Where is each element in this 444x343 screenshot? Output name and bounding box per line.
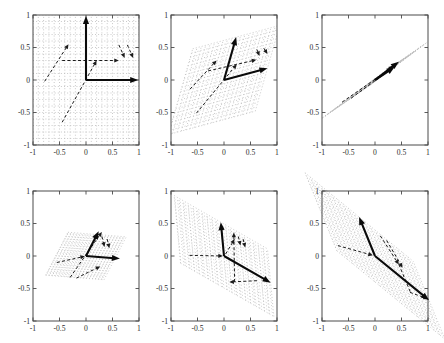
x-tick-label: -1 xyxy=(319,324,326,333)
solid-vectors xyxy=(359,217,429,300)
x-tick-label: 1 xyxy=(275,324,279,333)
y-tick-label: 1 xyxy=(164,11,168,20)
figure-canvas: -1-1-0.5-0.5000.50.511 -1-1-0.5-0.5000.5… xyxy=(0,0,444,343)
y-tick-label: -0.5 xyxy=(156,108,168,117)
x-tick-label: 0.5 xyxy=(246,148,256,157)
dashed-vectors xyxy=(45,44,134,122)
y-tick-label: -0.5 xyxy=(18,108,30,117)
axis-tick-labels: -1-1-0.5-0.5000.50.511 xyxy=(156,187,279,333)
y-tick-label: -1 xyxy=(24,141,31,150)
x-tick-label: -0.5 xyxy=(191,324,203,333)
subplot-bottom-left: -1-1-0.5-0.5000.50.511 xyxy=(11,183,151,343)
y-tick-label: -0.5 xyxy=(156,284,168,293)
y-tick-label: 0 xyxy=(26,76,30,85)
solid-vectors xyxy=(375,62,399,80)
x-tick-label: -0.5 xyxy=(342,324,354,333)
subplot-bottom-right: -1-1-0.5-0.5000.50.511 xyxy=(300,183,440,343)
y-tick-label: 1 xyxy=(315,187,319,196)
x-tick-label: -1 xyxy=(30,324,37,333)
y-tick-label: -0.5 xyxy=(18,284,30,293)
y-tick-label: -0.5 xyxy=(307,284,319,293)
y-tick-label: 1 xyxy=(164,187,168,196)
x-tick-label: 1 xyxy=(137,324,141,333)
y-tick-label: 0.5 xyxy=(21,43,31,52)
y-tick-label: 0 xyxy=(26,252,30,261)
y-tick-label: -0.5 xyxy=(307,108,319,117)
y-tick-label: 1 xyxy=(26,11,30,20)
x-tick-label: 0 xyxy=(222,148,226,157)
subplot-top-middle: -1-1-0.5-0.5000.50.511 xyxy=(149,7,289,167)
x-tick-label: 0 xyxy=(222,324,226,333)
y-tick-label: -1 xyxy=(24,317,31,326)
y-tick-label: 0 xyxy=(164,76,168,85)
x-tick-label: 0.5 xyxy=(397,324,407,333)
subplot-bottom-middle: -1-1-0.5-0.5000.50.511 xyxy=(149,183,289,343)
y-tick-label: 0.5 xyxy=(21,219,31,228)
x-tick-label: 0.5 xyxy=(108,148,118,157)
axis-tick-labels: -1-1-0.5-0.5000.50.511 xyxy=(156,11,279,157)
y-tick-label: 0 xyxy=(315,252,319,261)
x-tick-label: 0 xyxy=(373,148,377,157)
y-tick-label: -1 xyxy=(162,141,169,150)
x-tick-label: -0.5 xyxy=(342,148,354,157)
y-tick-label: 0 xyxy=(164,252,168,261)
x-tick-label: -1 xyxy=(168,324,175,333)
x-tick-label: 1 xyxy=(426,324,430,333)
x-tick-label: 0.5 xyxy=(108,324,118,333)
x-tick-label: -1 xyxy=(319,148,326,157)
axis-tick-labels: -1-1-0.5-0.5000.50.511 xyxy=(18,11,141,157)
x-tick-label: 1 xyxy=(137,148,141,157)
x-tick-label: 0.5 xyxy=(246,324,256,333)
y-tick-label: 1 xyxy=(26,187,30,196)
y-tick-label: 0.5 xyxy=(310,219,320,228)
x-tick-label: -1 xyxy=(30,148,37,157)
y-tick-label: -1 xyxy=(162,317,169,326)
y-tick-label: -1 xyxy=(313,317,320,326)
x-tick-label: 0.5 xyxy=(397,148,407,157)
x-tick-label: -0.5 xyxy=(53,324,65,333)
y-tick-label: 0.5 xyxy=(159,43,169,52)
x-tick-label: 0 xyxy=(84,148,88,157)
y-tick-label: -1 xyxy=(313,141,320,150)
x-tick-label: 0 xyxy=(373,324,377,333)
subplot-top-right: -1-1-0.5-0.5000.50.511 xyxy=(300,7,440,167)
y-tick-label: 0.5 xyxy=(310,43,320,52)
subplot-top-left: -1-1-0.5-0.5000.50.511 xyxy=(11,7,151,167)
x-tick-label: 0 xyxy=(84,324,88,333)
x-tick-label: -1 xyxy=(168,148,175,157)
x-tick-label: 1 xyxy=(275,148,279,157)
x-tick-label: -0.5 xyxy=(53,148,65,157)
y-tick-label: 1 xyxy=(315,11,319,20)
y-tick-label: 0.5 xyxy=(159,219,169,228)
x-tick-label: 1 xyxy=(426,148,430,157)
y-tick-label: 0 xyxy=(315,76,319,85)
axis-tick-labels: -1-1-0.5-0.5000.50.511 xyxy=(307,187,430,333)
x-tick-label: -0.5 xyxy=(191,148,203,157)
